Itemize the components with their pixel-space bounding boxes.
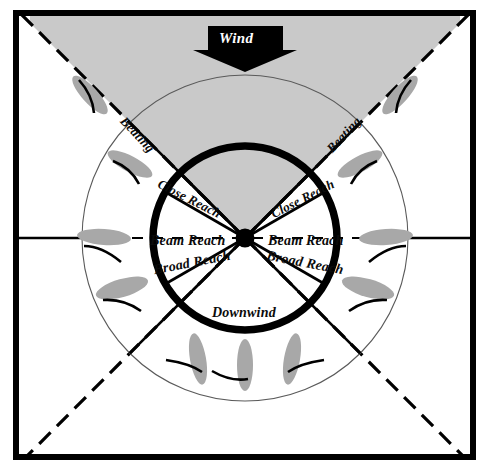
center-hub (236, 229, 255, 248)
diagram-canvas (0, 0, 489, 476)
boat-hull (237, 339, 253, 391)
points-of-sail-figure: Wind Beating Beating Close Reach Close R… (0, 0, 489, 476)
